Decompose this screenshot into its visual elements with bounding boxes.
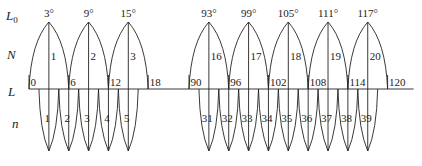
zone-3-35: 35 [278,89,298,151]
zone-3-1: 1 [39,89,59,151]
zone-number: 2 [91,50,97,62]
zone-number: 39 [361,112,373,124]
zone-number: 31 [202,112,213,124]
zone-3-3: 3 [79,89,99,151]
tick-label: 90 [191,76,203,88]
zone-3-32: 32 [219,89,239,151]
tick-label: 6 [70,76,76,88]
central-meridian-label: 93° [201,7,216,19]
zone-number: 35 [281,112,293,124]
row-labels: L0 N L n [5,8,19,131]
zone-3-5: 5 [118,89,138,151]
central-meridian-label: 117° [357,7,378,19]
zone-number: 33 [242,112,254,124]
row-label-central-meridian: L0 [5,8,18,25]
gauss-kruger-zone-diagram: L0 N L n 0612189096102108114120 3°19°215… [0,0,422,166]
zone-number: 32 [222,112,233,124]
row-label-longitude: L [7,84,15,99]
zone-number: 17 [251,50,263,62]
zone-number: 36 [301,112,313,124]
zone-3-31: 31 [199,89,219,151]
zone-3-4: 4 [99,89,119,151]
zone-number: 4 [104,112,110,124]
three-degree-zones: 12345313233343536373839 [39,89,378,151]
zone-3-33: 33 [239,89,259,151]
central-meridian-label: 111° [318,7,338,19]
tick-label: 0 [31,76,37,88]
zone-number: 34 [261,112,273,124]
tick-label: 108 [310,76,327,88]
longitude-axis: 0612189096102108114120 [29,75,414,89]
zone-3-38: 38 [338,89,358,151]
zone-number: 20 [370,50,382,62]
tick-label: 120 [389,76,406,88]
zone-number: 19 [330,50,342,62]
six-degree-zones: 3°19°215°393°1699°17105°18111°19117°20 [29,7,388,89]
zone-number: 2 [64,112,70,124]
zone-number: 5 [124,112,130,124]
tick-label: 102 [270,76,287,88]
zone-3-36: 36 [298,89,318,151]
tick-label: 114 [349,76,366,88]
central-meridian-label: 15° [121,7,136,19]
zone-number: 18 [290,50,302,62]
zone-3-34: 34 [259,89,279,151]
zone-number: 3 [130,50,136,62]
zone-3-2: 2 [59,89,79,151]
tick-label: 12 [110,76,121,88]
zone-number: 38 [341,112,353,124]
zone-3-37: 37 [318,89,338,151]
zone-3-39: 39 [358,89,378,151]
tick-label: 18 [150,76,162,88]
zone-number: 1 [51,50,57,62]
row-label-6deg-zone: N [6,47,17,62]
central-meridian-label: 99° [241,7,256,19]
central-meridian-label: 3° [44,7,54,19]
central-meridian-label: 9° [84,7,94,19]
central-meridian-label: 105° [278,7,299,19]
zone-number: 1 [45,112,51,124]
row-label-3deg-zone: n [12,116,19,131]
zone-number: 16 [211,50,223,62]
zone-number: 3 [84,112,90,124]
zone-number: 37 [321,112,333,124]
tick-label: 96 [230,76,242,88]
